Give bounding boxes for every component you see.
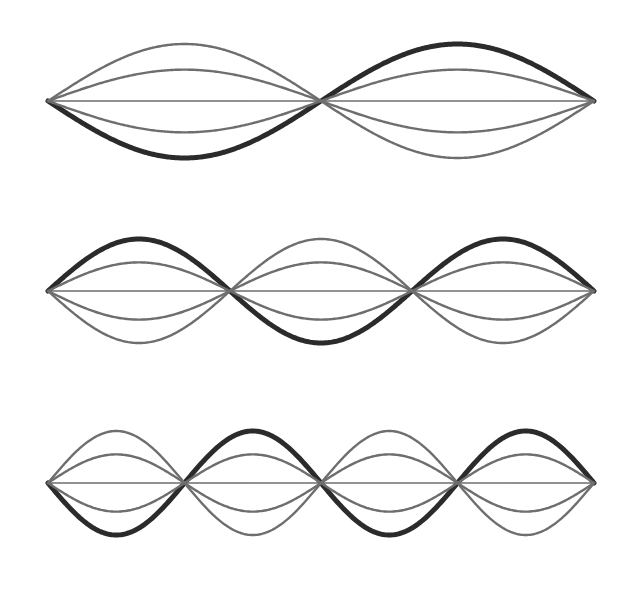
harmonic-panel-3 — [48, 239, 594, 343]
standing-wave-canvas — [0, 0, 641, 589]
harmonic-panel-2 — [48, 44, 594, 158]
standing-wave-figure — [0, 0, 641, 589]
harmonic-panel-4 — [48, 431, 594, 535]
